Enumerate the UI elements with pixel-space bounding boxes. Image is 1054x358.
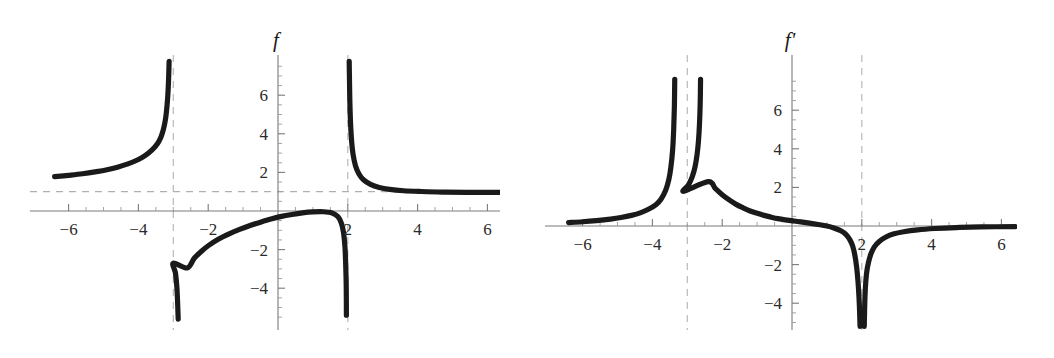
x-tick-label: −2 bbox=[199, 220, 217, 239]
x-tick-label: −6 bbox=[574, 235, 592, 254]
y-tick-label: 4 bbox=[260, 125, 269, 144]
plot-panel-f: −6−4−2246−4−2246f bbox=[0, 0, 527, 358]
y-tick-label: −4 bbox=[764, 294, 783, 313]
x-tick-label: 4 bbox=[413, 220, 422, 239]
y-tick-label: 4 bbox=[774, 140, 783, 159]
figure-two-panel-plots: −6−4−2246−4−2246f −6−4−2246−4−2246f' bbox=[0, 0, 1054, 358]
x-tick-label: 2 bbox=[344, 220, 353, 239]
curve-center-descending-branch bbox=[792, 221, 860, 327]
x-tick-label: −2 bbox=[713, 235, 731, 254]
y-tick-label: 2 bbox=[774, 178, 783, 197]
x-tick-label: −4 bbox=[129, 220, 148, 239]
curve-right-branch bbox=[864, 227, 1015, 327]
x-tick-label: 6 bbox=[997, 235, 1006, 254]
x-tick-label: −4 bbox=[643, 235, 662, 254]
y-tick-label: 6 bbox=[774, 101, 783, 120]
axis-name-label: f bbox=[273, 28, 282, 52]
y-tick-label: −2 bbox=[764, 256, 782, 275]
y-tick-label: 2 bbox=[260, 163, 269, 182]
y-tick-label: −2 bbox=[250, 241, 268, 260]
curve-left-branch bbox=[55, 61, 169, 176]
curve-right-branch bbox=[349, 61, 501, 192]
x-tick-label: −6 bbox=[60, 220, 78, 239]
plot-svg-f: −6−4−2246−4−2246f bbox=[0, 0, 527, 358]
x-tick-label: 4 bbox=[927, 235, 936, 254]
plot-panel-fprime: −6−4−2246−4−2246f' bbox=[527, 0, 1054, 358]
x-tick-label: 2 bbox=[858, 235, 867, 254]
plot-svg-fprime: −6−4−2246−4−2246f' bbox=[527, 0, 1054, 358]
curve-far-left-branch bbox=[569, 79, 675, 222]
tick-label-group: −6−4−2246−4−2246 bbox=[574, 101, 1006, 313]
y-tick-label: −4 bbox=[250, 279, 269, 298]
x-tick-label: 6 bbox=[483, 220, 492, 239]
y-tick-label: 6 bbox=[260, 86, 269, 105]
axis-name-label: f' bbox=[785, 28, 796, 52]
